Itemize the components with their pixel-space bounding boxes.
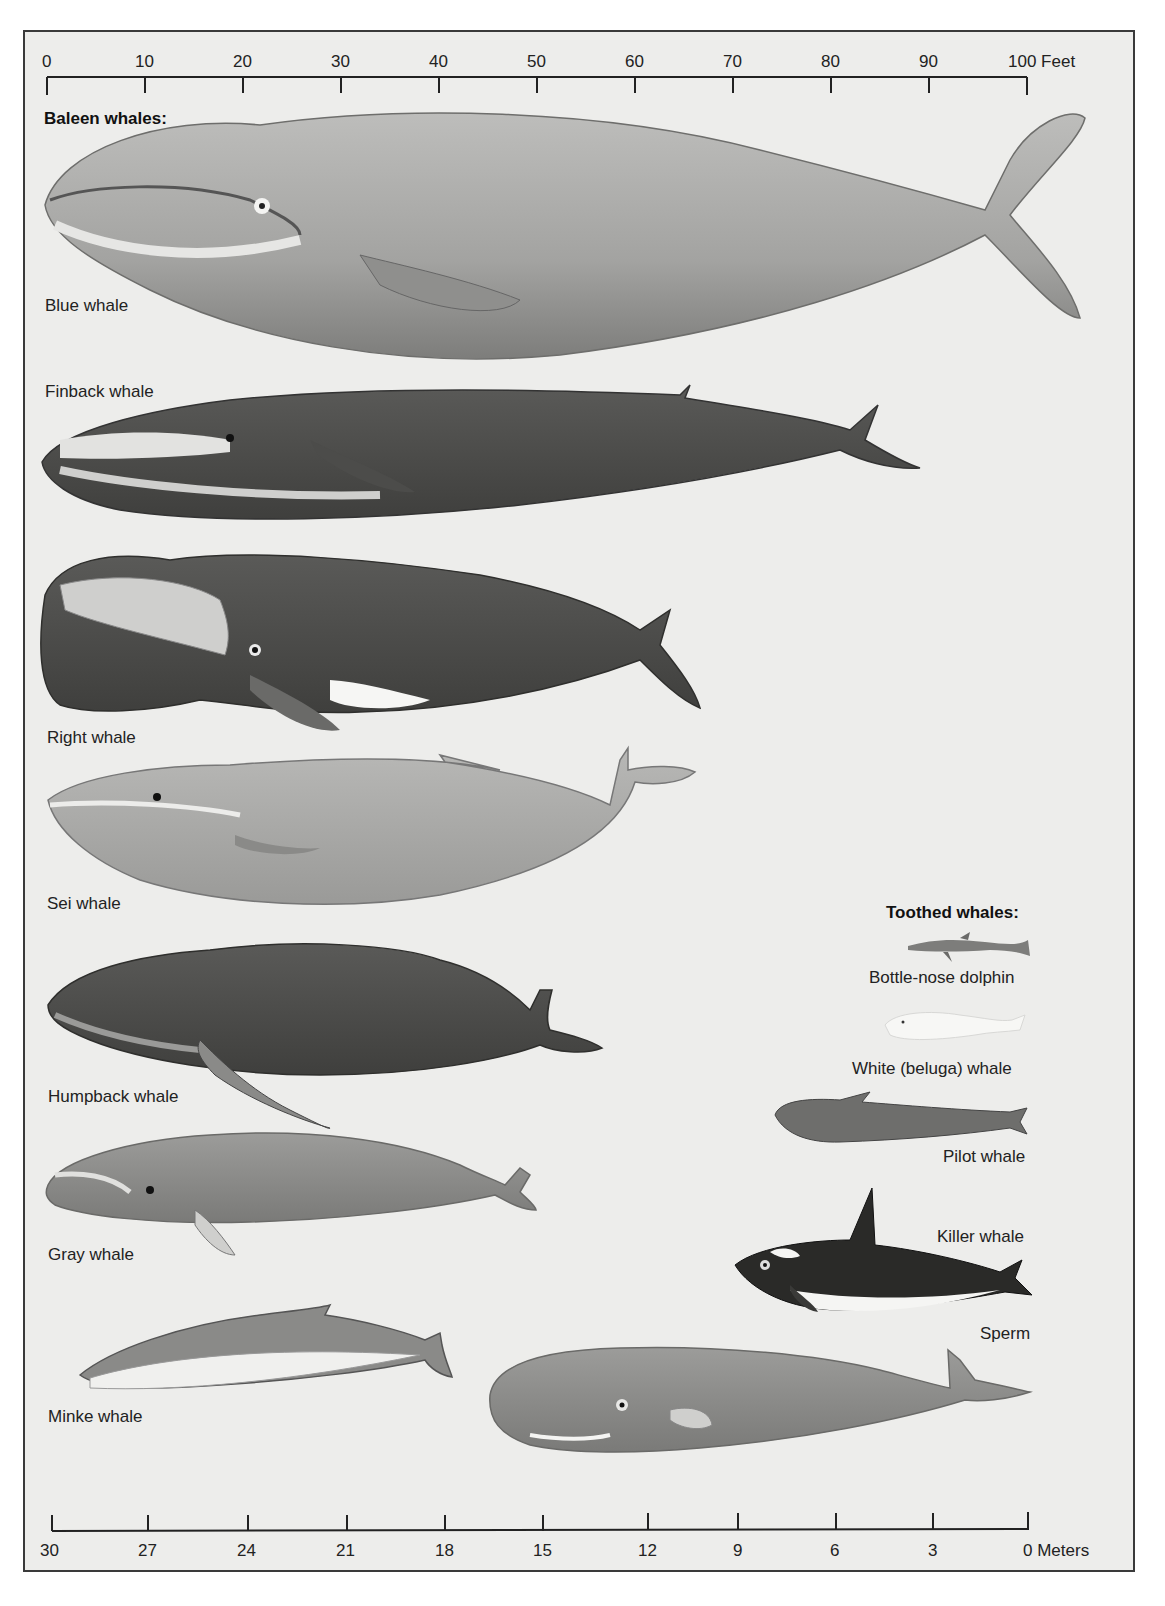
minke-whale-illustration (80, 1305, 452, 1389)
minke-whale-label: Minke whale (48, 1407, 143, 1427)
meters-tick-6: 6 (830, 1541, 839, 1561)
feet-tick-100: 100 Feet (1008, 52, 1075, 72)
meters-tick-15: 15 (533, 1541, 552, 1561)
blue-whale-label: Blue whale (45, 296, 128, 316)
feet-tick-30: 30 (331, 52, 350, 72)
sei-whale-label: Sei whale (47, 894, 121, 914)
finback-whale-label: Finback whale (45, 382, 154, 402)
sei-whale-illustration (48, 748, 695, 904)
meters-tick-3: 3 (928, 1541, 937, 1561)
killer-whale-label: Killer whale (937, 1227, 1024, 1247)
killer-whale-illustration (735, 1188, 1032, 1312)
gray-whale-label: Gray whale (48, 1245, 134, 1265)
blue-whale-illustration (45, 113, 1085, 359)
right-whale-label: Right whale (47, 728, 136, 748)
meters-scale-axis (52, 1512, 1028, 1531)
bottlenose-dolphin-illustration (908, 932, 1030, 962)
meters-tick-18: 18 (435, 1541, 454, 1561)
feet-tick-20: 20 (233, 52, 252, 72)
feet-tick-40: 40 (429, 52, 448, 72)
meters-tick-24: 24 (237, 1541, 256, 1561)
gray-whale-illustration (46, 1133, 536, 1255)
feet-tick-10: 10 (135, 52, 154, 72)
beluga-whale-label: White (beluga) whale (852, 1059, 1012, 1079)
feet-scale-axis (47, 77, 1027, 95)
feet-tick-0: 0 (42, 52, 51, 72)
meters-tick-21: 21 (336, 1541, 355, 1561)
whale-illustrations (0, 0, 1165, 1606)
meters-tick-0: 0 Meters (1023, 1541, 1089, 1561)
pilot-whale-illustration (775, 1092, 1027, 1142)
beluga-whale-illustration (885, 1012, 1025, 1039)
feet-tick-50: 50 (527, 52, 546, 72)
meters-tick-12: 12 (638, 1541, 657, 1561)
feet-tick-90: 90 (919, 52, 938, 72)
baleen-section-title: Baleen whales: (44, 109, 167, 129)
toothed-section-title: Toothed whales: (886, 903, 1019, 923)
pilot-whale-label: Pilot whale (943, 1147, 1025, 1167)
meters-tick-27: 27 (138, 1541, 157, 1561)
meters-tick-9: 9 (733, 1541, 742, 1561)
humpback-whale-label: Humpback whale (48, 1087, 178, 1107)
finback-whale-illustration (42, 385, 920, 519)
meters-tick-30: 30 (40, 1541, 59, 1561)
right-whale-illustration (41, 555, 700, 731)
feet-tick-60: 60 (625, 52, 644, 72)
feet-tick-70: 70 (723, 52, 742, 72)
feet-tick-80: 80 (821, 52, 840, 72)
sperm-whale-label: Sperm (980, 1324, 1030, 1344)
bottlenose-dolphin-label: Bottle-nose dolphin (869, 968, 1015, 988)
sperm-whale-illustration (490, 1347, 1030, 1452)
